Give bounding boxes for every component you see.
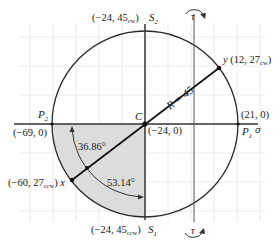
- shaded-quadrant: [52, 124, 145, 217]
- point-p2: [50, 122, 53, 125]
- rotation-cw-arrowhead: [200, 13, 206, 19]
- s2-coords: (−24, 45cw): [92, 12, 139, 24]
- angle-label-1: 36.86°: [78, 141, 106, 152]
- point-p1: [236, 122, 239, 125]
- mohrs-circle-diagram: τ τ σ C (−24, 0) R = 45 P2 (−69, 0) P1 (…: [0, 0, 279, 248]
- center-label: C: [135, 110, 143, 122]
- x-point-label: (−60, 27ccw) x: [8, 177, 65, 189]
- s1-coords: (−24, 45ccw): [91, 224, 141, 236]
- p1-label: P1: [241, 125, 252, 140]
- p2-label: P2: [37, 108, 49, 123]
- s2-label: S2: [149, 11, 159, 26]
- point-y: [217, 66, 222, 71]
- y-point-label: y (12, 27cw): [222, 54, 272, 66]
- p2-coords: (−69, 0): [13, 127, 47, 139]
- center-coords: (−24, 0): [148, 125, 182, 137]
- rotation-ccw-arrowhead: [199, 228, 205, 234]
- angle-label-2: 53.14°: [107, 177, 135, 188]
- sigma-label: σ: [255, 123, 261, 135]
- point-c: [142, 121, 147, 126]
- point-x: [70, 178, 75, 183]
- tau-label-bottom: τ: [191, 225, 195, 236]
- s1-label: S1: [148, 223, 157, 238]
- point-intersect: [85, 166, 89, 170]
- p1-coords: (21, 0): [241, 109, 269, 121]
- tau-label-top: τ: [191, 11, 195, 22]
